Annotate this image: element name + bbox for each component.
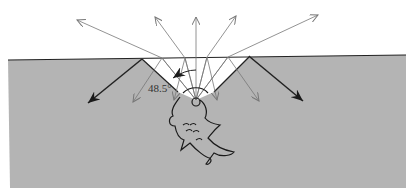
angle-label: 48.5° — [148, 82, 172, 94]
refraction-diagram — [0, 0, 415, 196]
